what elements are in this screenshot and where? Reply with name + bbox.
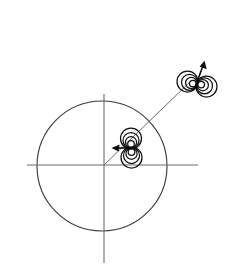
radial-ray: [104, 80, 192, 165]
inner-dipole-symbol: [112, 128, 143, 168]
outer-dipole-symbol: [177, 61, 217, 97]
unit-circle: [37, 101, 167, 231]
diagram-svg: [0, 0, 241, 280]
outer-dipole-right-lobe: [196, 76, 217, 97]
figure-canvas: [0, 0, 241, 280]
